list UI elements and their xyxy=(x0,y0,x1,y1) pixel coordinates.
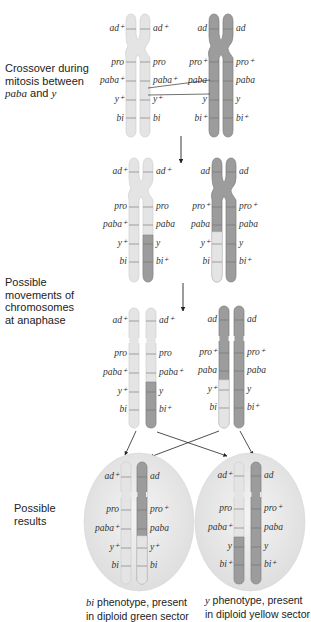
gene-label: y⁺ xyxy=(152,94,163,104)
gene-label: ad⁺ xyxy=(153,23,169,33)
gene-label: pro xyxy=(105,504,119,514)
gene-label: bi xyxy=(120,404,128,414)
chromosome-light-pair xyxy=(125,14,150,137)
gene-label: y⁺ xyxy=(117,386,128,396)
gene-label: ad xyxy=(264,470,274,480)
result-cell-green-sector: ad⁺ pro paba⁺ y⁺ bi ad pro⁺ paba y⁺ bi xyxy=(84,453,194,591)
gene-label: paba xyxy=(263,522,283,532)
stage-crossover: ad⁺ pro paba⁺ y⁺ bi ad⁺ pro paba⁺ y⁺ bi … xyxy=(99,14,255,137)
gene-label: paba⁺ xyxy=(102,219,128,229)
gene-label: pro xyxy=(110,57,124,67)
gene-label: paba xyxy=(246,365,266,375)
gene-label: bi⁺ xyxy=(247,402,260,412)
gene-label: paba⁺ xyxy=(207,522,233,532)
caption-text: in diploid yellow sector xyxy=(205,608,310,620)
caption-green-sector: bi phenotype, present in diploid green s… xyxy=(86,596,189,622)
arrow-icon xyxy=(150,431,219,457)
gene-label: bi xyxy=(203,256,211,266)
gene-label: ad xyxy=(198,23,208,33)
gene-label: bi⁺ xyxy=(236,113,249,123)
gene-label: y⁺ xyxy=(200,238,211,248)
gene-label: y xyxy=(263,541,269,551)
caption-text: in diploid green sector xyxy=(86,610,189,622)
gene-label: paba xyxy=(197,365,217,375)
gene-label: ad⁺ xyxy=(113,166,129,176)
gene-label: pro⁺ xyxy=(263,503,283,513)
gene-label: y⁺ xyxy=(109,542,120,552)
stage-after-crossover: ad⁺ pro paba⁺ y⁺ bi ad⁺ pro paba y bi⁺ a… xyxy=(102,158,258,282)
gene-label: ad xyxy=(150,471,160,481)
gene-label: pro⁺ xyxy=(198,347,218,357)
result-cell-yellow-sector: ad⁺ pro paba⁺ y bi⁺ ad pro⁺ paba y bi⁺ xyxy=(195,453,305,591)
gene-label: paba⁺ xyxy=(94,523,120,533)
gene-label: y xyxy=(235,94,241,104)
gene-label: bi⁺ xyxy=(156,256,169,266)
gene-label: bi⁺ xyxy=(159,404,172,414)
gene-label: paba⁺ xyxy=(99,75,125,85)
gene-label: ad xyxy=(208,314,218,324)
gene-label: ad⁺ xyxy=(105,471,121,481)
arrow-icon xyxy=(157,432,227,456)
exchanged-segment-light xyxy=(212,232,222,282)
gene-label: bi xyxy=(117,113,125,123)
caption-gene: bi xyxy=(86,597,94,608)
gene-label: bi⁺ xyxy=(264,559,277,569)
gene-label: bi xyxy=(153,113,161,123)
gene-label: pro xyxy=(158,348,172,358)
chromatid-4 xyxy=(234,306,244,428)
gene-label: y⁺ xyxy=(114,94,125,104)
gene-label: paba xyxy=(155,219,175,229)
gene-label: pro xyxy=(113,201,127,211)
gene-label: bi xyxy=(120,256,128,266)
gene-label: y⁺ xyxy=(117,238,128,248)
arrow-icon xyxy=(125,431,136,455)
gene-label: paba xyxy=(235,75,255,85)
gene-label: pro⁺ xyxy=(191,201,211,211)
gene-label: pro xyxy=(155,201,169,211)
chromosome-dark-pair xyxy=(208,14,233,137)
gene-label: ad⁺ xyxy=(113,315,129,325)
gene-label: ad⁺ xyxy=(110,23,126,33)
gene-label: ad xyxy=(247,314,257,324)
gene-label: ad xyxy=(201,166,211,176)
caption-text: phenotype, present xyxy=(94,596,187,608)
gene-label: paba xyxy=(190,219,210,229)
gene-label: pro⁺ xyxy=(149,504,169,514)
caption-text: phenotype, present xyxy=(210,594,303,606)
gene-label: pro⁺ xyxy=(188,57,208,67)
gene-label: y xyxy=(227,541,233,551)
gene-label: bi xyxy=(112,560,120,570)
gene-label: pro xyxy=(218,503,232,513)
gene-label: y⁺ xyxy=(207,384,218,394)
gene-label: ad⁺ xyxy=(218,470,234,480)
gene-label: y xyxy=(246,384,252,394)
gene-label: y xyxy=(155,238,161,248)
gene-label: ad xyxy=(236,23,246,33)
exchanged-segment-dark xyxy=(143,235,153,282)
gene-label: paba xyxy=(187,75,207,85)
gene-label: bi xyxy=(210,402,218,412)
gene-label: bi⁺ xyxy=(195,113,208,123)
gene-label: y xyxy=(202,94,208,104)
gene-label: paba xyxy=(238,219,258,229)
gene-label: pro xyxy=(113,348,127,358)
gene-label: ad⁺ xyxy=(159,315,175,325)
gene-label: bi⁺ xyxy=(220,559,233,569)
gene-label: bi⁺ xyxy=(239,256,252,266)
caption-yellow-sector: y phenotype, present in diploid yellow s… xyxy=(205,594,310,620)
gene-label: paba⁺ xyxy=(152,75,178,85)
gene-label: paba⁺ xyxy=(158,367,184,377)
gene-label: pro xyxy=(152,57,166,67)
gene-label: y⁺ xyxy=(149,542,160,552)
gene-label: ad xyxy=(239,166,249,176)
stage-anaphase: ad⁺ pro paba⁺ y⁺ bi ad⁺ pro paba⁺ y bi⁺ … xyxy=(102,306,266,428)
gene-label: pro⁺ xyxy=(246,347,266,357)
gene-label: pro⁺ xyxy=(235,57,255,67)
gene-label: ad⁺ xyxy=(156,166,172,176)
gene-label: y xyxy=(238,238,244,248)
arrow-icon xyxy=(240,431,253,455)
gene-label: pro⁺ xyxy=(238,201,258,211)
gene-label: paba xyxy=(149,523,169,533)
gene-label: bi xyxy=(150,560,158,570)
